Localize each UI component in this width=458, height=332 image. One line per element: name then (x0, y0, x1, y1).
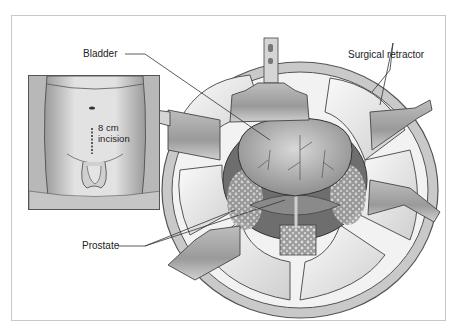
surgical-retractor-label: Surgical retractor (348, 49, 424, 61)
prostate-label: Prostate (82, 240, 119, 252)
torso-illustration (29, 76, 160, 210)
bladder-label: Bladder (83, 48, 117, 60)
navel (89, 106, 95, 109)
incision-length-label: 8 cm (98, 122, 119, 133)
incision-word-label: incision (98, 133, 130, 144)
incision-inset: 8 cm incision (28, 75, 160, 210)
